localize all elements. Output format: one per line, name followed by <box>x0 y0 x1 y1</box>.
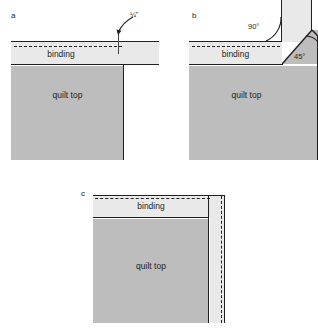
panel-c-binding-label: binding <box>93 201 209 211</box>
panel-c: c binding quilt top <box>75 183 245 328</box>
panel-c-stitch-line-right <box>221 196 222 323</box>
panel-c-right-binding-fabric <box>210 196 225 323</box>
panel-a-quilt-right-edge <box>123 65 124 160</box>
panel-b: b binding quilt top 90° 45° <box>178 0 318 170</box>
panel-b-quilt-fabric <box>189 66 318 160</box>
panel-b-angle-45-arc <box>178 0 318 80</box>
panel-a-quilt-fabric <box>11 66 124 160</box>
panel-c-quilt-right-edge <box>208 195 209 323</box>
panel-c-stitch-line-top <box>95 198 210 199</box>
panel-c-quilt-fabric <box>93 219 209 323</box>
panel-c-quilt-label: quilt top <box>93 261 209 271</box>
panel-a: a binding quilt top ¼" <box>0 0 160 170</box>
panel-a-dimension-label: ¼" <box>130 11 138 18</box>
panel-c-binding-bottom-edge <box>93 217 209 218</box>
panel-c-right-binding-outer-edge <box>224 195 225 323</box>
panel-a-dimension-arrow <box>0 0 160 60</box>
panel-b-angle-45-label: 45° <box>294 52 305 61</box>
panel-c-label: c <box>81 189 85 198</box>
panel-a-quilt-label: quilt top <box>11 90 124 100</box>
panel-b-quilt-label: quilt top <box>189 90 304 100</box>
panel-a-binding-bottom-edge <box>11 64 159 65</box>
